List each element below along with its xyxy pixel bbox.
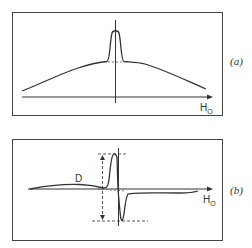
panel-a-x-axis-label-sub: O bbox=[207, 108, 212, 115]
panel-b-amplitude-down-arrow-icon bbox=[100, 215, 105, 220]
panel-a-arrow-icon bbox=[207, 95, 213, 100]
panel-b-amplitude-up-arrow-icon bbox=[100, 155, 105, 160]
figure-canvas bbox=[0, 0, 252, 248]
panel-b-x-axis-label-sub: O bbox=[210, 200, 215, 207]
panel-b-x-axis-label: HO bbox=[203, 194, 216, 207]
panel-b-curve-label: D bbox=[75, 173, 82, 184]
panel-b-label: (b) bbox=[230, 184, 243, 196]
panel-b bbox=[13, 140, 223, 241]
panel-a-curve bbox=[22, 31, 206, 91]
panel-a-label: (a) bbox=[230, 55, 243, 67]
panel-a-x-axis-label: HO bbox=[200, 102, 213, 115]
panel-b-arrow-icon bbox=[207, 187, 213, 192]
panel-a-frame bbox=[13, 13, 223, 116]
panel-b-curve bbox=[30, 154, 198, 220]
panel-a bbox=[13, 13, 223, 116]
